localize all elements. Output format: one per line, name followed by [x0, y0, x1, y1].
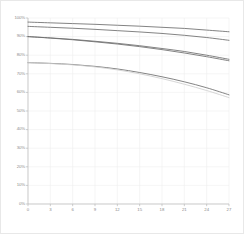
x-axis-tick-label: 6	[66, 208, 80, 212]
chart-plot-area	[1, 1, 244, 234]
y-axis-tick-label: 90%	[3, 34, 25, 38]
chart-line-series-4	[28, 37, 229, 61]
x-axis-tick-label: 18	[155, 208, 169, 212]
y-axis-tick-label: 0%	[3, 202, 25, 206]
chart-line-series-5	[28, 63, 229, 95]
x-axis-tick-label: 9	[88, 208, 102, 212]
axis-tick-marks	[26, 18, 229, 206]
x-axis-tick-label: 15	[133, 208, 147, 212]
x-axis-tick-label: 0	[21, 208, 35, 212]
y-axis-tick-label: 80%	[3, 53, 25, 57]
x-axis-tick-label: 24	[200, 208, 214, 212]
y-axis-tick-label: 60%	[3, 90, 25, 94]
x-axis-tick-label: 12	[110, 208, 124, 212]
chart-line-series-1	[28, 22, 229, 32]
y-axis-tick-label: 10%	[3, 183, 25, 187]
chart-line-series-3	[28, 37, 229, 60]
y-axis-tick-label: 70%	[3, 72, 25, 76]
y-axis-tick-label: 50%	[3, 109, 25, 113]
x-axis-tick-label: 27	[222, 208, 236, 212]
y-axis-tick-label: 100%	[3, 16, 25, 20]
chart-container: 0%10%20%30%40%50%60%70%80%90%100% 036912…	[0, 0, 244, 234]
x-axis-tick-label: 21	[177, 208, 191, 212]
y-axis-tick-label: 30%	[3, 146, 25, 150]
horizontal-gridlines	[28, 18, 229, 204]
y-axis-tick-label: 40%	[3, 127, 25, 131]
chart-series-layer	[28, 22, 229, 98]
y-axis-tick-label: 20%	[3, 165, 25, 169]
x-axis-tick-label: 3	[43, 208, 57, 212]
